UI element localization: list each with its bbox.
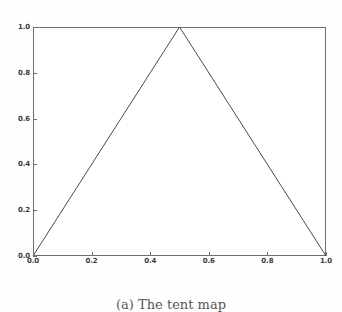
x-tick-mark bbox=[267, 252, 268, 256]
figure-caption: (a) The tent map bbox=[0, 298, 342, 312]
x-tick-label: 0.6 bbox=[203, 258, 215, 265]
data-series-svg bbox=[33, 27, 326, 256]
y-tick-label: 0.0 bbox=[18, 253, 30, 260]
x-tick-label: 0.4 bbox=[144, 258, 156, 265]
y-tick-label: 0.8 bbox=[18, 69, 30, 76]
x-tick-mark bbox=[92, 252, 93, 256]
y-tick-mark bbox=[33, 164, 37, 165]
y-tick-mark bbox=[33, 27, 37, 28]
y-tick-mark bbox=[33, 119, 37, 120]
x-tick-mark bbox=[209, 252, 210, 256]
x-tick-label: 0.2 bbox=[86, 258, 98, 265]
y-tick-label: 0.2 bbox=[18, 207, 30, 214]
plot-area bbox=[33, 27, 326, 256]
y-tick-mark bbox=[33, 210, 37, 211]
y-tick-label: 0.6 bbox=[18, 115, 30, 122]
series-line-tent bbox=[33, 27, 326, 256]
y-tick-label: 0.4 bbox=[18, 161, 30, 168]
x-tick-label: 1.0 bbox=[320, 258, 332, 265]
y-tick-mark bbox=[33, 73, 37, 74]
x-tick-mark bbox=[150, 252, 151, 256]
x-tick-label: 0.8 bbox=[261, 258, 273, 265]
y-tick-label: 1.0 bbox=[18, 24, 30, 31]
x-tick-mark bbox=[326, 252, 327, 256]
